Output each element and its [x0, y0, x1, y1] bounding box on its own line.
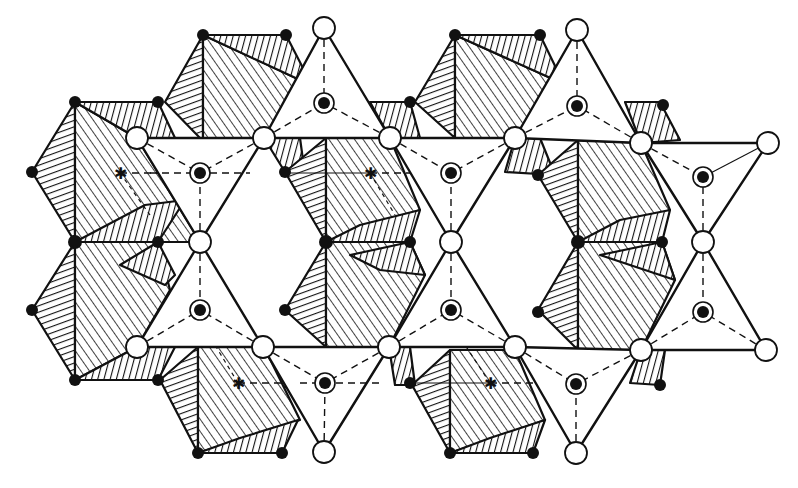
center-atom-icon — [190, 300, 210, 320]
star-marker-icon: ✱ — [484, 374, 497, 393]
star-marker-icon: ✱ — [114, 164, 127, 183]
center-atom-icon — [190, 163, 210, 183]
center-atom-icon — [315, 373, 335, 393]
center-atom-icon — [566, 374, 586, 394]
star-marker-icon: ✱ — [364, 164, 377, 183]
center-atom-icon — [314, 93, 334, 113]
octahedron-column — [264, 138, 420, 242]
octahedron-column — [32, 242, 175, 380]
diagram-canvas: ✱ ✱ ✱ ✱ — [0, 0, 798, 488]
star-marker-icon: ✱ — [232, 374, 245, 393]
center-atom-icon — [693, 302, 713, 322]
center-atom-icon — [567, 96, 587, 116]
center-atom-icon — [441, 300, 461, 320]
center-atom-icon — [693, 167, 713, 187]
crystal-structure-diagram: ✱ ✱ ✱ ✱ — [0, 0, 798, 488]
center-atom-icon — [441, 163, 461, 183]
